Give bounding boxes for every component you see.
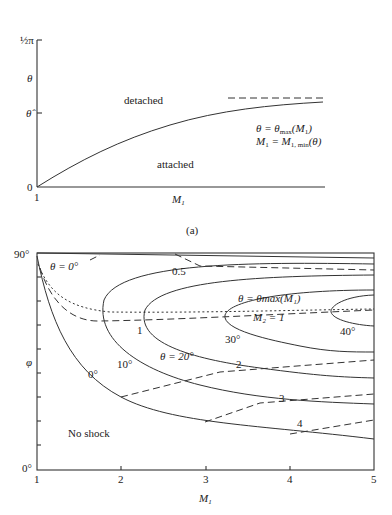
theta-0-curve [37, 256, 374, 439]
tick-label-zero: 0 [27, 181, 33, 193]
m2-2-curve [121, 360, 374, 397]
y-axis-label-b: φ [26, 356, 32, 368]
figure-b: 90° 0° φ 1 2 3 4 5 M1 θ = 0° 0° 10° θ = … [14, 248, 377, 506]
figure-canvas: ½π θ θ̂ 0 1 M1 detached attached θ = θma… [0, 0, 392, 515]
m2-3-curve [205, 394, 374, 422]
label-theta-max: θ = θmax(M₁) [238, 292, 301, 305]
x-axis-label-a: M1 [171, 193, 185, 207]
y-tick-0: 0° [22, 462, 32, 474]
label-m2-equals-1: M₂ = 1 [252, 311, 284, 323]
figure-a: ½π θ θ̂ 0 1 M1 detached attached θ = θma… [20, 34, 325, 237]
m2-dash-top-left [90, 255, 100, 260]
label-theta-20: θ = 20° [160, 350, 194, 362]
x-tick-1-a: 1 [34, 191, 40, 203]
label-m2-3: 3 [279, 392, 285, 404]
x-tick-1: 1 [34, 473, 40, 485]
label-m2-2: 2 [236, 358, 242, 370]
label-m2-0.5: 0.5 [172, 265, 186, 277]
curve-label-line1: θ = θmax(M1) [256, 122, 312, 136]
x-tick-5: 5 [371, 473, 377, 485]
label-theta-30: 30° [225, 333, 240, 345]
x-tick-3: 3 [203, 473, 209, 485]
region-no-shock: No shock [68, 427, 110, 439]
x-tick-2: 2 [118, 473, 124, 485]
x-tick-4: 4 [287, 473, 293, 485]
label-theta-40: 40° [340, 325, 355, 337]
y-tick-90: 90° [14, 248, 29, 260]
label-theta-0: 0° [88, 368, 98, 380]
x-ticks-b [121, 466, 290, 470]
y-axis-label-a: θ [27, 72, 33, 84]
label-theta-10: 10° [117, 358, 132, 370]
y-ticks-b [37, 277, 41, 445]
tick-label-half-pi: ½π [20, 34, 34, 46]
region-detached: detached [124, 94, 164, 106]
label-theta-0-top: θ = 0° [50, 260, 79, 272]
label-m2-1: 1 [137, 324, 143, 336]
label-m2-4: 4 [297, 417, 303, 429]
caption-a: (a) [186, 224, 199, 237]
m2-4-curve [290, 420, 374, 434]
x-axis-label-b: M1 [198, 492, 212, 506]
region-attached: attached [157, 158, 194, 170]
curve-label-line2: M1 = M1, min(θ) [255, 135, 322, 149]
tick-label-theta-hat: θ̂ [26, 107, 36, 119]
theta-0-top-line [37, 253, 374, 258]
theta-max-dotted-curve [38, 264, 374, 312]
